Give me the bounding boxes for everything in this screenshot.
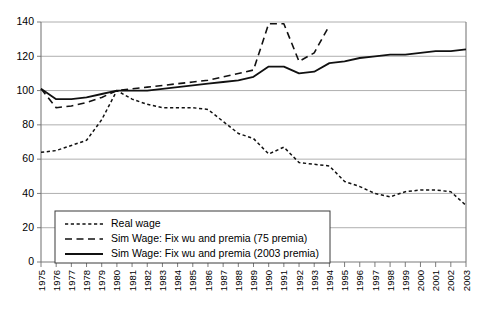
x-tick-label-1992: 1992 [294,270,305,291]
y-tick-label-80: 80 [22,118,34,130]
x-tick-label-2001: 2001 [430,270,441,291]
x-tick-label-1977: 1977 [66,270,77,291]
x-tick-label-1980: 1980 [111,270,122,291]
x-tick-label-1997: 1997 [370,270,381,291]
x-tick-label-1993: 1993 [309,270,320,291]
x-tick-label-1996: 1996 [354,270,365,291]
x-tick-label-1975: 1975 [36,270,47,291]
x-tick-label-1976: 1976 [51,270,62,291]
x-tick-label-2002: 2002 [445,270,456,291]
y-tick-label-100: 100 [16,84,34,96]
x-tick-label-1981: 1981 [127,270,138,291]
series-line-0 [41,91,466,206]
x-tick-label-1986: 1986 [203,270,214,291]
x-tick-label-1995: 1995 [339,270,350,291]
x-tick-label-1994: 1994 [324,270,335,291]
x-tick-label-1982: 1982 [142,270,153,291]
x-tick-label-1990: 1990 [263,270,274,291]
x-tick-label-1998: 1998 [385,270,396,291]
x-tick-label-1978: 1978 [81,270,92,291]
x-tick-label-1987: 1987 [218,270,229,291]
line-chart: 0204060801001201401975197619771978197919… [0,0,488,328]
y-tick-label-60: 60 [22,152,34,164]
y-tick-label-20: 20 [22,221,34,233]
x-tick-label-1988: 1988 [233,270,244,291]
x-tick-label-1989: 1989 [248,270,259,291]
x-tick-label-2003: 2003 [461,270,472,291]
x-tick-label-1999: 1999 [400,270,411,291]
series-line-1 [41,24,329,108]
legend-label-0: Real wage [111,217,161,229]
series-line-2 [41,49,466,99]
y-tick-label-120: 120 [16,50,34,62]
y-tick-label-140: 140 [16,15,34,27]
y-tick-label-40: 40 [22,187,34,199]
legend-label-1: Sim Wage: Fix wu and premia (75 premia) [111,232,307,244]
chart-container: 0204060801001201401975197619771978197919… [0,0,488,328]
y-tick-label-0: 0 [28,255,34,267]
x-tick-label-1983: 1983 [157,270,168,291]
x-tick-label-1991: 1991 [278,270,289,291]
x-tick-label-1985: 1985 [187,270,198,291]
x-tick-label-1979: 1979 [96,270,107,291]
legend-label-2: Sim Wage: Fix wu and premia (2003 premia… [111,247,319,259]
x-tick-label-2000: 2000 [415,270,426,291]
x-tick-label-1984: 1984 [172,270,183,291]
